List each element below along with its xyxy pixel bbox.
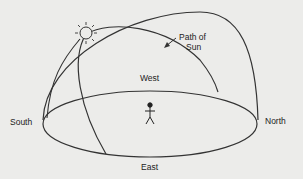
label-path-line1: Path of	[179, 33, 206, 42]
horizon-ellipse	[43, 91, 257, 157]
label-path-line2: Sun	[186, 43, 201, 52]
meridian-arc	[47, 39, 80, 118]
person-icon	[145, 103, 155, 124]
label-east: East	[141, 163, 158, 172]
arrow-icon	[164, 38, 176, 48]
label-south: South	[10, 118, 32, 127]
sun-icon	[75, 22, 97, 44]
label-west: West	[140, 74, 159, 83]
celestial-dome-diagram	[0, 0, 303, 179]
label-north: North	[265, 117, 286, 126]
